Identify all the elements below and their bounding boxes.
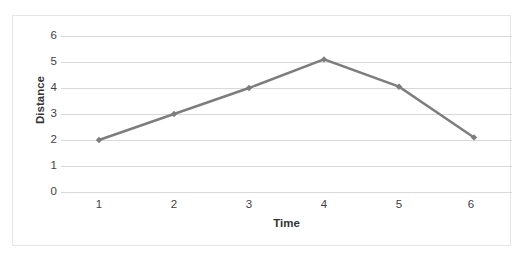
chart-frame: Distance 6 5 4 3 2 1 0 1 2 3 4 5 6 Time [12,15,511,246]
gridline [61,192,512,193]
plot-area [61,36,512,192]
y-axis-tick-label: 4 [27,82,57,94]
y-axis-tick-labels: 6 5 4 3 2 1 0 [21,36,57,192]
y-axis-tick-label: 1 [27,160,57,172]
x-axis-tick-label: 5 [379,198,419,210]
x-axis-tick-label: 6 [451,198,491,210]
y-axis-tick-label: 3 [27,108,57,120]
x-axis-title: Time [61,217,512,229]
x-axis-tick-label: 3 [229,198,269,210]
y-axis-tick-label: 2 [27,134,57,146]
y-axis-tick-label: 6 [27,30,57,42]
x-axis-tick-label: 2 [154,198,194,210]
x-axis-tick-label: 1 [79,198,119,210]
x-axis-tick-labels: 1 2 3 4 5 6 [61,198,512,216]
data-point-marker [321,56,327,62]
y-axis-tick-label: 5 [27,56,57,68]
data-point-marker [246,85,252,91]
data-point-marker [171,111,177,117]
x-axis-tick-label: 4 [304,198,344,210]
data-point-marker [96,137,102,143]
y-axis-tick-label: 0 [27,186,57,198]
series-line-path [99,59,474,140]
line-series [61,36,512,192]
